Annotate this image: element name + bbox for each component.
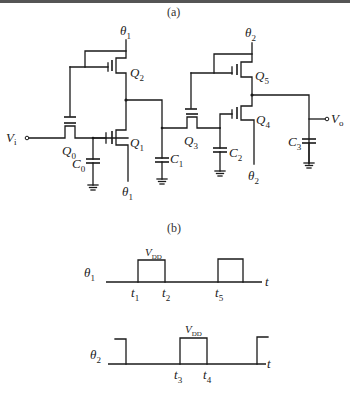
figure: (a) θ1 Q2 Vi Q0 xyxy=(0,0,350,394)
theta2-bottom-label: θ2 xyxy=(248,168,259,186)
theta2-top-label: θ2 xyxy=(245,25,256,43)
timing-theta1: θ1 VDD t t1 t2 t5 xyxy=(84,246,269,303)
transistor-q1: Q1 xyxy=(93,100,144,181)
capacitor-c0: C0 xyxy=(72,138,100,190)
q3-label: Q3 xyxy=(184,133,198,151)
q5-label: Q5 xyxy=(255,68,269,86)
capacitor-c2: C2 xyxy=(213,114,242,176)
theta2-timing-label: θ2 xyxy=(90,347,101,365)
theta2-pulse xyxy=(115,339,126,364)
t5-label: t5 xyxy=(215,285,224,303)
q1-label: Q1 xyxy=(130,135,144,153)
t1-label: t1 xyxy=(131,285,139,303)
transistor-q5: Q5 xyxy=(191,43,269,95)
t3-label: t3 xyxy=(174,367,183,385)
capacitor-c3: C3 xyxy=(288,134,316,168)
t-axis-label: t xyxy=(267,356,271,371)
theta1-bottom-label: θ1 xyxy=(122,184,133,202)
top-border xyxy=(0,0,350,3)
vi-terminal xyxy=(25,136,29,140)
timing-theta2: θ2 VDD t t3 t4 xyxy=(90,323,271,385)
t-axis-label: t xyxy=(265,274,269,289)
vo-label: Vo xyxy=(331,111,344,128)
stage-1: θ1 Q2 Vi Q0 xyxy=(6,23,183,202)
vdd-label: VDD xyxy=(145,246,162,261)
q2-label: Q2 xyxy=(130,65,144,83)
c0-label: C0 xyxy=(72,156,86,174)
theta1-timing-label: θ1 xyxy=(84,265,95,283)
c2-label: C2 xyxy=(229,145,242,163)
vdd-label: VDD xyxy=(185,323,202,338)
theta1-top-label: θ1 xyxy=(120,23,131,41)
vi-label: Vi xyxy=(6,130,17,147)
t4-label: t4 xyxy=(203,367,212,385)
transistor-q3: Q3 xyxy=(162,114,220,151)
transistor-q2: Q2 xyxy=(70,40,144,100)
vo-terminal xyxy=(325,117,329,121)
panel-a-label: (a) xyxy=(167,5,180,19)
q4-label: Q4 xyxy=(256,112,270,130)
theta1-pulse xyxy=(218,259,243,282)
c1-label: C1 xyxy=(170,151,183,169)
panel-b-label: (b) xyxy=(167,221,181,235)
stage-2: θ2 Q5 Q3 C2 xyxy=(161,25,344,186)
theta1-pulse xyxy=(138,260,165,282)
theta2-pulse xyxy=(180,338,207,364)
capacitor-c1: C1 xyxy=(155,151,183,184)
t2-label: t2 xyxy=(162,285,170,303)
c3-label: C3 xyxy=(288,134,302,152)
